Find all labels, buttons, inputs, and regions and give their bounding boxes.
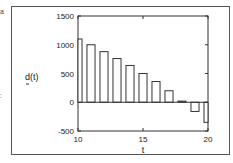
x-tick-label: 15: [139, 135, 148, 144]
y-axis-label: d(t): [25, 72, 39, 82]
bar-chart: 150010005000-500101520td(t): [0, 0, 233, 163]
y-tick-label: -500: [58, 127, 75, 136]
bar: [191, 102, 199, 111]
y-tick-label: 1500: [56, 12, 74, 21]
bar: [87, 45, 95, 103]
x-tick-label: 10: [74, 135, 83, 144]
bar: [139, 74, 147, 103]
bar: [113, 59, 121, 103]
y-tick-label: 1000: [56, 41, 74, 50]
bar: [126, 65, 134, 102]
x-tick-label: 20: [204, 135, 213, 144]
y-tick-label: 0: [70, 98, 75, 107]
bar: [165, 91, 173, 103]
bar: [204, 102, 208, 122]
y-tick-label: 500: [61, 70, 75, 79]
bar: [152, 82, 160, 103]
x-axis-label: t: [142, 145, 145, 155]
bar: [100, 52, 108, 103]
bar: [78, 39, 82, 102]
